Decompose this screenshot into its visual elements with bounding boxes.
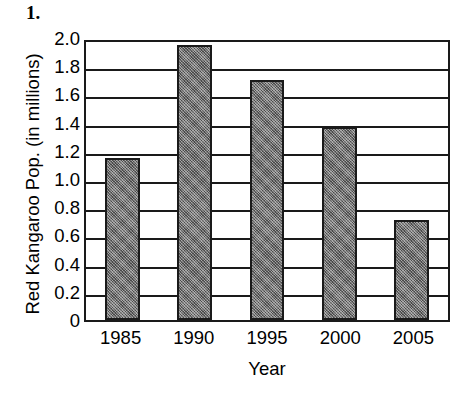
problem-number-label: 1. [26,2,40,24]
x-axis-tick-label: 1995 [230,326,303,352]
y-axis-tick-label: 1.6 [28,86,80,104]
x-axis-title: Year [84,358,450,380]
x-axis-tick-labels: 19851990199520002005 [84,326,450,352]
y-axis-tick-label: 0.8 [28,199,80,217]
x-axis-tick-label: 2005 [377,326,450,352]
bar [250,80,285,320]
y-axis-tick-label: 1.0 [28,171,80,189]
plot-area [84,40,450,322]
y-axis-tick-label: 0.2 [28,284,80,302]
bar-chart-figure: 1. Red Kangaroo Pop. (in millions) 2.01.… [0,0,464,393]
bar-slot [158,42,230,320]
y-axis-tick-label: 1.2 [28,143,80,161]
bar [105,158,140,320]
bar [394,220,429,320]
y-axis-tick-label: 0.6 [28,227,80,245]
y-axis-tick-label: 1.4 [28,115,80,133]
y-axis-tick-label: 2.0 [28,30,80,48]
x-axis-tick-label: 2000 [304,326,377,352]
x-axis-tick-label: 1985 [84,326,157,352]
bar [177,45,212,320]
y-axis-tick-labels: 2.01.81.61.41.21.00.80.60.40.20 [28,40,80,322]
bar-series [86,42,448,320]
x-axis-tick-label: 1990 [157,326,230,352]
y-axis-tick-label: 1.8 [28,58,80,76]
bar-slot [376,42,448,320]
bar [322,127,357,320]
bar-slot [231,42,303,320]
y-axis-tick-label: 0.4 [28,256,80,274]
bar-slot [86,42,158,320]
y-axis-tick-label: 0 [28,312,80,330]
bar-slot [303,42,375,320]
